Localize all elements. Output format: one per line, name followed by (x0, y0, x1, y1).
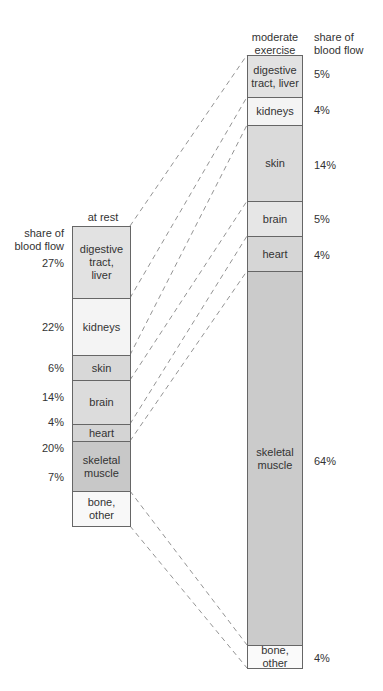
seg-label: skin (92, 362, 112, 375)
left-pct-skeletal-muscle: 20% (30, 442, 64, 455)
right-pct-skin: 14% (314, 159, 336, 172)
right-pct-kidneys: 4% (314, 104, 330, 117)
seg-label: kidneys (256, 105, 293, 118)
right-pct-brain: 5% (314, 213, 330, 226)
left-header: at rest (78, 211, 128, 224)
right-pct-digestive: 5% (314, 68, 330, 81)
left-pct-brain: 14% (30, 391, 64, 404)
seg-label: bone, other (88, 496, 116, 522)
left-seg-heart: heart (72, 424, 131, 442)
right-seg-digestive: digestive tract, liver (247, 55, 303, 98)
seg-label: digestive tract, liver (80, 243, 123, 282)
left-seg-bone-other: bone, other (72, 491, 131, 527)
seg-label: kidneys (83, 321, 120, 334)
left-seg-kidneys: kidneys (72, 298, 131, 356)
seg-label: heart (262, 248, 287, 261)
left-pct-heart: 4% (30, 416, 64, 429)
right-seg-skin: skin (247, 125, 303, 202)
left-axis-label: share of blood flow (12, 227, 64, 253)
seg-label: brain (263, 213, 287, 226)
right-pct-heart: 4% (314, 249, 330, 262)
right-seg-brain: brain (247, 201, 303, 237)
right-seg-kidneys: kidneys (247, 97, 303, 126)
left-seg-skeletal-muscle: skeletal muscle (72, 441, 131, 492)
seg-label: skeletal muscle (83, 454, 120, 480)
right-seg-bone-other: bone, other (247, 645, 303, 669)
left-seg-skin: skin (72, 355, 131, 381)
left-pct-digestive: 27% (30, 257, 64, 270)
right-axis-label: share of blood flow (314, 31, 374, 57)
left-pct-bone-other: 7% (30, 471, 64, 484)
right-pct-bone-other: 4% (314, 652, 330, 665)
seg-label: digestive tract, liver (251, 64, 299, 90)
right-pct-skeletal-muscle: 64% (314, 455, 336, 468)
seg-label: skeletal muscle (256, 446, 293, 472)
right-seg-skeletal-muscle: skeletal muscle (247, 271, 303, 646)
seg-label: skin (265, 157, 285, 170)
seg-label: brain (89, 396, 113, 409)
left-seg-brain: brain (72, 380, 131, 425)
seg-label: heart (89, 427, 114, 440)
left-pct-kidneys: 22% (30, 321, 64, 334)
right-header: moderate exercise (245, 31, 305, 57)
right-seg-heart: heart (247, 236, 303, 272)
left-pct-skin: 6% (30, 362, 64, 375)
seg-label: bone, other (261, 644, 289, 670)
left-seg-digestive: digestive tract, liver (72, 226, 131, 299)
